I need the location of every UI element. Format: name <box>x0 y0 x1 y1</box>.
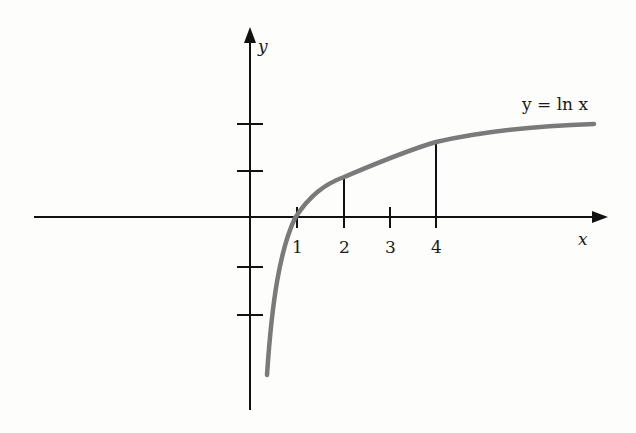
curve-label: y = ln x <box>521 94 588 114</box>
tick-label-1: 1 <box>292 237 303 257</box>
x-axis-arrow-icon <box>592 211 608 223</box>
x-axis <box>34 211 608 223</box>
y-axis <box>244 27 256 410</box>
y-axis-label: y <box>257 36 268 56</box>
x-axis-label: x <box>578 229 588 249</box>
tick-label-2: 2 <box>339 237 350 257</box>
tick-label-4: 4 <box>431 237 442 257</box>
ln-chart: y x y = ln x 1 2 3 4 <box>0 0 636 433</box>
y-axis-arrow-icon <box>244 27 256 43</box>
x-ticks <box>297 143 436 228</box>
tick-label-3: 3 <box>385 237 396 257</box>
